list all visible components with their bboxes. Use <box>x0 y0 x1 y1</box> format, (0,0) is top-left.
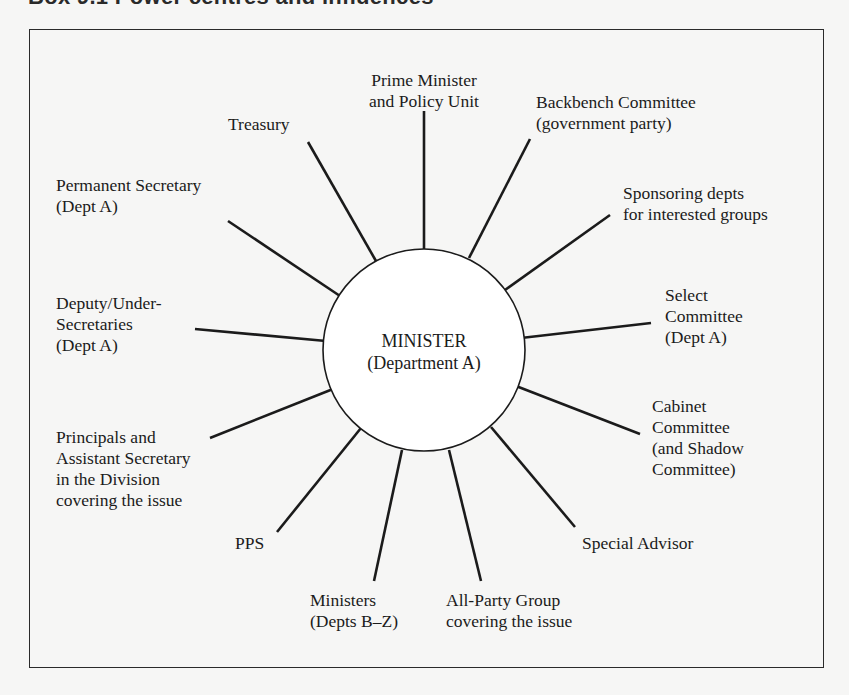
node-line: (and Shadow <box>652 438 744 459</box>
spoke-pps <box>277 428 361 532</box>
node-backbench-committee: Backbench Committee (government party) <box>536 92 696 134</box>
node-line: and Policy Unit <box>358 91 490 112</box>
node-line: Sponsoring depts <box>623 183 768 204</box>
spoke-special-advisor <box>491 427 575 527</box>
node-line: for interested groups <box>623 204 768 225</box>
node-line: Deputy/Under- <box>56 293 162 314</box>
spoke-principals <box>210 389 333 438</box>
node-line: Treasury <box>228 114 290 135</box>
node-treasury: Treasury <box>228 114 290 135</box>
node-select-committee: Select Committee (Dept A) <box>665 285 743 348</box>
node-line: PPS <box>235 533 264 554</box>
node-principals: Principals and Assistant Secretary in th… <box>56 427 191 511</box>
node-all-party-group: All-Party Group covering the issue <box>446 590 572 632</box>
spoke-deputy <box>195 329 326 341</box>
node-deputy-under-secretaries: Deputy/Under- Secretaries (Dept A) <box>56 293 162 356</box>
spoke-select-committee <box>521 323 651 338</box>
node-line: covering the issue <box>56 490 191 511</box>
node-line: Committee <box>652 417 744 438</box>
node-line: (Depts B–Z) <box>310 611 398 632</box>
node-cabinet-committee: Cabinet Committee (and Shadow Committee) <box>652 396 744 480</box>
node-line: Committee <box>665 306 743 327</box>
node-ministers-other-depts: Ministers (Depts B–Z) <box>310 590 398 632</box>
node-special-advisor: Special Advisor <box>582 533 693 554</box>
spoke-treasury <box>308 142 376 261</box>
node-line: Special Advisor <box>582 533 693 554</box>
spoke-all-party <box>449 450 481 581</box>
node-prime-minister: Prime Minister and Policy Unit <box>358 70 490 112</box>
node-line: All-Party Group <box>446 590 572 611</box>
spoke-ministers <box>374 450 402 581</box>
node-line: (Dept A) <box>665 327 743 348</box>
minister-department: (Department A) <box>324 352 524 374</box>
node-line: Assistant Secretary <box>56 448 191 469</box>
minister-node: MINISTER (Department A) <box>324 330 524 374</box>
node-sponsoring-depts: Sponsoring depts for interested groups <box>623 183 768 225</box>
node-line: Select <box>665 285 743 306</box>
node-permanent-secretary: Permanent Secretary (Dept A) <box>56 175 201 217</box>
minister-title: MINISTER <box>324 330 524 352</box>
node-line: in the Division <box>56 469 191 490</box>
node-line: Permanent Secretary <box>56 175 201 196</box>
node-line: Principals and <box>56 427 191 448</box>
spoke-cabinet-committee <box>516 386 640 434</box>
node-line: (government party) <box>536 113 696 134</box>
node-line: Cabinet <box>652 396 744 417</box>
spoke-permanent-secretary <box>228 221 340 296</box>
node-line: Prime Minister <box>358 70 490 91</box>
node-pps: PPS <box>235 533 264 554</box>
spoke-sponsoring <box>505 215 610 290</box>
node-line: Committee) <box>652 459 744 480</box>
node-line: Secretaries <box>56 314 162 335</box>
node-line: Backbench Committee <box>536 92 696 113</box>
node-line: Ministers <box>310 590 398 611</box>
node-line: (Dept A) <box>56 335 162 356</box>
node-line: covering the issue <box>446 611 572 632</box>
spoke-backbench <box>469 139 530 258</box>
node-line: (Dept A) <box>56 196 201 217</box>
